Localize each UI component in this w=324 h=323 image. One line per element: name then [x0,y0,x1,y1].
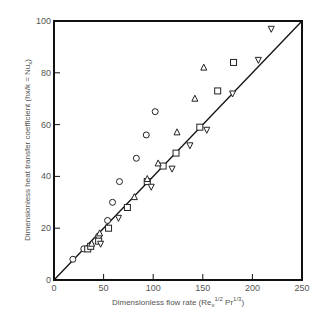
x-tick-label: 0 [51,283,56,293]
triangle-down-marker [255,57,261,63]
triangle-down-marker [148,184,154,190]
y-tick-label: 60 [41,120,51,130]
triangle-down-marker [169,166,175,172]
triangle-up-marker [201,64,207,70]
circle-marker [133,155,139,161]
square-marker [106,225,112,231]
triangle-up-marker [174,129,180,135]
square-marker [231,59,237,65]
x-tick-label: 150 [195,283,210,293]
circle-marker [105,217,111,223]
square-marker [124,204,130,210]
y-axis-ticks: 020406080100 [36,16,60,285]
y-axis-label: Dimensionless heat transfer coefficient … [23,59,33,241]
x-tick-label: 50 [99,283,109,293]
square-marker [173,150,179,156]
x-axis-label: Dimensionless flow rate (Rex1/2 Pr1/3) [112,296,245,308]
circle-marker [152,109,158,115]
x-tick-label: 200 [245,283,260,293]
x-tick-label: 250 [294,283,309,293]
y-tick-label: 20 [41,223,51,233]
triangle-down-marker [115,215,121,221]
y-tick-label: 0 [46,275,51,285]
y-tick-label: 80 [41,68,51,78]
circle-marker [70,256,76,262]
x-axis-ticks: 050100150200250 [51,274,309,293]
triangle-up-marker [192,95,198,101]
square-marker [197,124,203,130]
circle-marker [116,179,122,185]
scatter-chart: 050100150200250 020406080100 Dimensionle… [0,0,324,323]
x-tick-label: 100 [146,283,161,293]
data-markers [70,26,274,262]
y-tick-label: 40 [41,171,51,181]
triangle-down-marker [268,26,274,32]
square-marker [215,88,221,94]
triangle-down-marker [204,127,210,133]
circle-marker [110,199,116,205]
y-tick-label: 100 [36,16,51,26]
triangle-down-marker [187,143,193,149]
circle-marker [143,132,149,138]
